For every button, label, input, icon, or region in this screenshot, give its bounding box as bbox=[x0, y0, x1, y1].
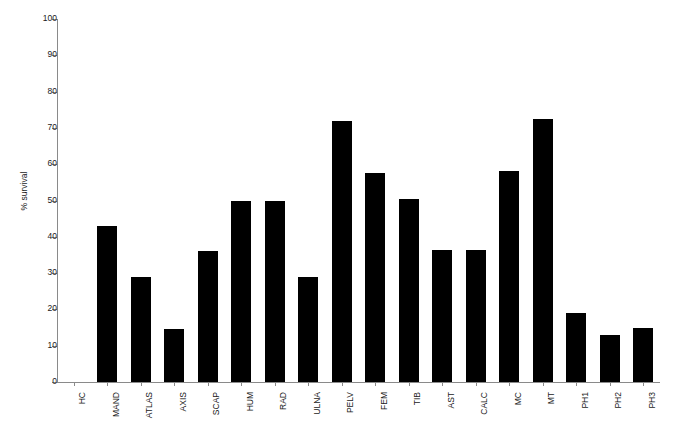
x-axis-ticks: HCMANDATLASAXISSCAPHUMRADULNAPELVFEMTIBA… bbox=[57, 382, 660, 439]
bar-fem bbox=[365, 173, 385, 382]
bar-slot bbox=[593, 19, 627, 382]
bar-slot bbox=[225, 19, 259, 382]
y-tick-label: 40 bbox=[11, 232, 57, 241]
x-tick-mark bbox=[375, 382, 376, 386]
x-tick-label-atlas: ATLAS bbox=[144, 392, 154, 418]
bar-slot bbox=[124, 19, 158, 382]
x-tick-label-pelv: PELV bbox=[345, 392, 355, 413]
y-tick-label: 10 bbox=[11, 341, 57, 350]
x-tick-label-tib: TIB bbox=[412, 392, 422, 405]
x-tick-label-ph2: PH2 bbox=[613, 392, 623, 409]
x-tick-label-rad: RAD bbox=[278, 392, 288, 410]
bar-mc bbox=[499, 171, 519, 382]
x-tick-mark bbox=[208, 382, 209, 386]
bar-hum bbox=[231, 201, 251, 383]
bar-calc bbox=[466, 250, 486, 382]
bar-slot bbox=[292, 19, 326, 382]
x-tick-label-ph3: PH3 bbox=[647, 392, 657, 409]
bars-group bbox=[57, 19, 660, 382]
bar-ph2 bbox=[600, 335, 620, 382]
bar-slot bbox=[191, 19, 225, 382]
bar-slot bbox=[258, 19, 292, 382]
x-tick-mark bbox=[442, 382, 443, 386]
x-tick-mark bbox=[643, 382, 644, 386]
x-tick-label-scap: SCAP bbox=[211, 392, 221, 415]
x-tick-label-ast: AST bbox=[446, 392, 456, 409]
x-tick-mark bbox=[610, 382, 611, 386]
bar-tib bbox=[399, 199, 419, 382]
bar-atlas bbox=[131, 277, 151, 382]
x-tick-mark bbox=[476, 382, 477, 386]
x-tick-mark bbox=[74, 382, 75, 386]
x-tick-mark bbox=[107, 382, 108, 386]
y-tick-label: 60 bbox=[11, 159, 57, 168]
x-tick-mark bbox=[174, 382, 175, 386]
x-tick-mark bbox=[141, 382, 142, 386]
y-tick-label: 0 bbox=[11, 377, 57, 386]
bar-slot bbox=[627, 19, 661, 382]
bar-slot bbox=[325, 19, 359, 382]
bar-chart: % survival 0102030405060708090100 HCMAND… bbox=[0, 0, 677, 439]
x-tick-label-calc: CALC bbox=[479, 392, 489, 415]
x-tick-mark bbox=[509, 382, 510, 386]
bar-ulna bbox=[298, 277, 318, 382]
x-tick-label-mc: MC bbox=[513, 392, 523, 405]
y-tick-label: 50 bbox=[11, 196, 57, 205]
y-tick-label: 20 bbox=[11, 304, 57, 313]
bar-ast bbox=[432, 250, 452, 382]
bar-slot bbox=[158, 19, 192, 382]
x-tick-label-axis: AXIS bbox=[178, 392, 188, 411]
bar-axis bbox=[164, 329, 184, 382]
x-tick-label-ph1: PH1 bbox=[580, 392, 590, 409]
y-tick-label: 30 bbox=[11, 268, 57, 277]
bar-mand bbox=[97, 226, 117, 382]
bar-slot bbox=[426, 19, 460, 382]
x-tick-mark bbox=[576, 382, 577, 386]
bar-pelv bbox=[332, 121, 352, 382]
x-tick-mark bbox=[342, 382, 343, 386]
bar-mt bbox=[533, 119, 553, 382]
x-tick-mark bbox=[275, 382, 276, 386]
x-tick-mark bbox=[308, 382, 309, 386]
bar-scap bbox=[198, 251, 218, 382]
bar-rad bbox=[265, 201, 285, 383]
y-tick-label: 90 bbox=[11, 50, 57, 59]
bar-slot bbox=[493, 19, 527, 382]
x-tick-label-fem: FEM bbox=[379, 392, 389, 410]
y-tick-label: 80 bbox=[11, 87, 57, 96]
x-tick-mark bbox=[543, 382, 544, 386]
x-tick-mark bbox=[409, 382, 410, 386]
bar-slot bbox=[392, 19, 426, 382]
bar-slot bbox=[560, 19, 594, 382]
y-tick-label: 100 bbox=[11, 14, 57, 23]
x-tick-label-mand: MAND bbox=[111, 392, 121, 417]
bar-slot bbox=[359, 19, 393, 382]
y-tick-label: 70 bbox=[11, 123, 57, 132]
x-tick-label-hc: HC bbox=[77, 392, 87, 404]
x-tick-label-ulna: ULNA bbox=[312, 392, 322, 415]
bar-slot bbox=[91, 19, 125, 382]
bar-slot bbox=[526, 19, 560, 382]
bar-slot bbox=[57, 19, 91, 382]
x-tick-label-hum: HUM bbox=[245, 392, 255, 411]
bar-ph1 bbox=[566, 313, 586, 382]
x-tick-mark bbox=[241, 382, 242, 386]
bar-slot bbox=[459, 19, 493, 382]
bar-ph3 bbox=[633, 328, 653, 382]
x-tick-label-mt: MT bbox=[546, 392, 556, 404]
